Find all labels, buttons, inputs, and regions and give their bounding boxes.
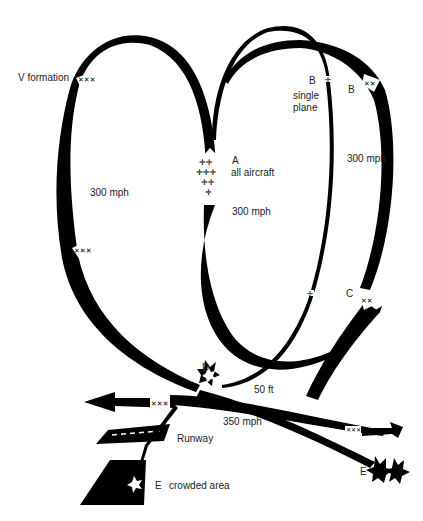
point-c-letter: C	[346, 288, 353, 299]
point-e-right-letter: E	[360, 466, 367, 477]
svg-text:✛: ✛	[307, 290, 313, 298]
svg-text:✕✕✕: ✕✕✕	[74, 247, 92, 255]
svg-text:✛: ✛	[325, 76, 331, 84]
a-formation-marker: ✛✛ ✛✛✛ ✛✛ ✛	[196, 148, 222, 198]
point-b-formation-letter: B	[348, 84, 355, 95]
svg-text:✕✕✕: ✕✕✕	[346, 426, 361, 433]
left-exit-marker: ✕✕✕	[150, 398, 170, 408]
svg-text:✕✕: ✕✕	[364, 80, 376, 88]
svg-text:✕✕✕: ✕✕✕	[151, 400, 169, 408]
svg-text:✛✛: ✛✛	[199, 158, 213, 167]
svg-text:✕✕✕: ✕✕✕	[78, 76, 96, 84]
explosion-icon-right-2	[385, 458, 410, 484]
left-loop-path	[56, 35, 216, 392]
point-e-left-letter: E	[155, 480, 162, 491]
point-a-letter: A	[232, 155, 239, 166]
svg-text:✛✛✛: ✛✛✛	[196, 168, 216, 177]
runway-label: Runway	[177, 433, 213, 444]
altitude-label: 50 ft	[254, 384, 273, 395]
single-plane-lower-marker: ✛	[306, 290, 314, 298]
point-d-letter: D	[202, 362, 209, 373]
plane-label: plane	[293, 102, 317, 113]
crowded-area-label: crowded area	[169, 480, 230, 491]
single-label: single	[293, 90, 319, 101]
svg-text:✛: ✛	[205, 188, 212, 197]
point-b-single-letter: B	[309, 75, 316, 86]
center-speed-label: 300 mph	[232, 206, 271, 217]
point-a-description: all aircraft	[231, 167, 274, 178]
svg-text:✕✕: ✕✕	[361, 297, 373, 305]
b-single-marker: ✛	[324, 76, 332, 84]
low-pass-speed-label: 350 mph	[223, 416, 262, 427]
left-speed-label: 300 mph	[90, 187, 129, 198]
right-exit-marker: ✕✕✕	[345, 426, 361, 433]
svg-text:✛✛: ✛✛	[201, 178, 215, 187]
single-plane-path	[222, 82, 334, 388]
v-formation-label: V formation	[18, 72, 69, 83]
right-speed-label: 300 mph	[347, 153, 386, 164]
